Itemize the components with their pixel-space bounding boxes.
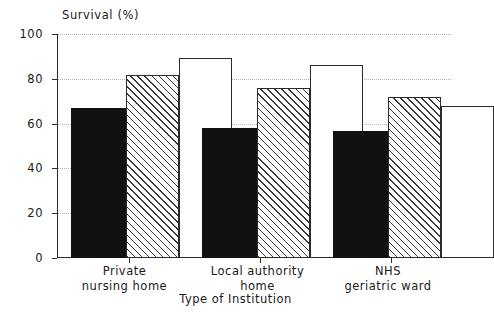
x-tick-2 <box>391 258 392 263</box>
bar-private-hatched <box>126 75 179 258</box>
y-tick-label-60: 60 <box>27 117 43 131</box>
y-tick-label-0: 0 <box>35 251 43 265</box>
y-tick-20: 20 <box>52 213 57 214</box>
y-tick-label-100: 100 <box>20 27 43 41</box>
y-tick-label-40: 40 <box>27 161 43 175</box>
gridline-100 <box>57 34 451 36</box>
bar-nhs-open <box>441 106 494 258</box>
x-label-private: Private nursing home <box>62 264 187 294</box>
y-tick-60: 60 <box>52 124 57 125</box>
x-tick-1 <box>260 258 261 263</box>
bar-local-hatched <box>257 88 310 258</box>
x-label-nhs: NHS geriatric ward <box>323 264 453 294</box>
y-tick-label-20: 20 <box>27 206 43 220</box>
x-label-local: Local authority home <box>190 264 325 294</box>
y-tick-100: 100 <box>52 34 57 35</box>
x-tick-0 <box>129 258 130 263</box>
y-axis-line <box>57 34 58 258</box>
x-axis-title: Type of Institution <box>6 292 465 306</box>
plot-area: 100 80 60 40 20 0 <box>57 34 451 258</box>
bar-nhs-hatched <box>388 97 441 258</box>
y-tick-80: 80 <box>52 79 57 80</box>
gridline-80 <box>57 79 451 81</box>
y-axis-title: Survival (%) <box>62 8 139 22</box>
y-tick-40: 40 <box>52 168 57 169</box>
bar-private-solid <box>71 108 126 258</box>
bar-local-solid <box>202 128 257 258</box>
y-tick-0: 0 <box>52 258 57 259</box>
y-tick-label-80: 80 <box>27 72 43 86</box>
bar-nhs-solid <box>333 131 388 258</box>
